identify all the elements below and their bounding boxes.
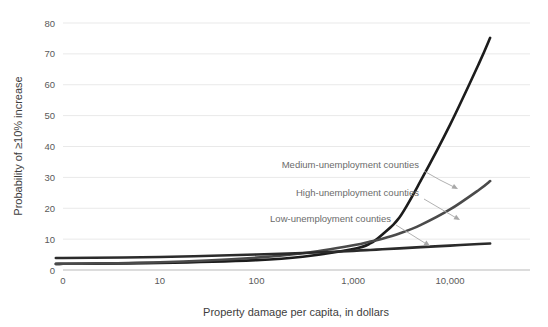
y-axis-tick-labels: 01020304050607080 (44, 18, 55, 276)
series-annotations: Medium-unemployment countiesHigh-unemplo… (270, 159, 460, 246)
y-axis-title: Probability of ≥10% increase (12, 76, 24, 215)
probability-vs-property-damage-chart: 01020304050607080 0101001,00010,000 Medi… (0, 0, 548, 327)
series-annotation-label: Medium-unemployment counties (282, 159, 420, 170)
y-axis-tick-label: 10 (44, 234, 55, 245)
y-axis-tick-label: 30 (44, 172, 55, 183)
series-line (56, 38, 490, 264)
y-axis-tick-label: 20 (44, 203, 55, 214)
x-axis-tick-label: 10,000 (435, 275, 464, 286)
x-axis-tick-label: 100 (249, 275, 265, 286)
x-axis-tick-labels: 0101001,00010,000 (60, 275, 464, 286)
chart-container: 01020304050607080 0101001,00010,000 Medi… (0, 0, 548, 327)
x-axis-tick-label: 0 (60, 275, 65, 286)
x-axis-tick-label: 1,000 (341, 275, 365, 286)
gridlines (63, 23, 530, 239)
x-axis-title: Property damage per capita, in dollars (203, 306, 389, 318)
annotation-leader-line (424, 171, 456, 188)
x-axis-tick-label: 10 (154, 275, 165, 286)
data-series-curves (56, 38, 490, 264)
series-annotation-label: High-unemployment counties (296, 187, 419, 198)
y-axis-tick-label: 0 (50, 265, 55, 276)
y-axis-tick-label: 80 (44, 18, 55, 29)
series-annotation-label: Low-unemployment counties (270, 213, 391, 224)
y-axis-tick-label: 40 (44, 141, 55, 152)
y-axis-tick-label: 60 (44, 79, 55, 90)
y-axis-tick-label: 50 (44, 110, 55, 121)
y-axis-tick-label: 70 (44, 48, 55, 59)
